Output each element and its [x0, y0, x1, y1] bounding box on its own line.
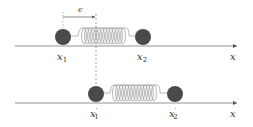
top-mass-1	[55, 29, 71, 45]
top-spring	[71, 28, 135, 44]
spring-mass-diagram: ϵ x1 x2 x	[0, 0, 253, 127]
top-row: x1 x2 x	[15, 28, 237, 64]
top-mass-2	[135, 29, 151, 45]
bottom-mass-1	[88, 86, 104, 102]
bottom-mass-2	[167, 86, 183, 102]
epsilon-label: ϵ	[78, 5, 83, 14]
label-x2: x2	[137, 51, 147, 64]
label-x1: x1	[57, 51, 67, 64]
bottom-spring	[104, 85, 167, 101]
epsilon-displacement: ϵ	[63, 5, 95, 28]
top-axis-label: x	[230, 51, 236, 62]
label-x1-prime: x′1	[90, 107, 99, 121]
bottom-axis-label: x	[230, 108, 236, 119]
label-x2-prime: x′2	[169, 107, 178, 121]
bottom-row: x′1 x′2 x	[15, 85, 237, 121]
